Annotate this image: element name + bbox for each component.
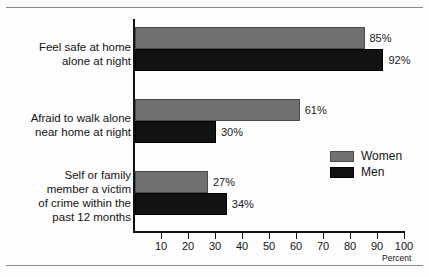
bar-men-feel-safe[interactable] <box>135 49 383 71</box>
axis-title-percent: Percent <box>382 253 411 263</box>
value-axis-tick <box>296 233 297 239</box>
category-label-line: member a victim <box>6 182 131 196</box>
chart-legend: Women Men <box>330 149 402 181</box>
value-axis-tick-label: 40 <box>227 240 257 252</box>
legend-swatch-women-icon <box>330 151 354 162</box>
value-axis-tick-label: 90 <box>362 240 392 252</box>
bar-value-women-afraid-to-walk: 61% <box>305 104 327 116</box>
bar-value-men-afraid-to-walk: 30% <box>221 126 243 138</box>
bar-men-victim-of-crime[interactable] <box>135 193 227 215</box>
bar-chart-plot-area: Feel safe at home alone at night Afraid … <box>0 0 429 277</box>
value-axis-tick-label: 100 <box>389 240 419 252</box>
bar-men-afraid-to-walk[interactable] <box>135 121 216 143</box>
bar-value-women-feel-safe: 85% <box>370 32 392 44</box>
legend-label-men: Men <box>361 166 384 179</box>
category-label-line: Afraid to walk alone <box>6 111 131 125</box>
value-axis-tick <box>269 233 270 239</box>
value-axis-tick-label: 50 <box>254 240 284 252</box>
category-label-line: past 12 months <box>6 210 131 224</box>
category-label-victim-of-crime: Self or family member a victim of crime … <box>6 168 131 224</box>
value-axis-tick-label: 20 <box>173 240 203 252</box>
value-axis-tick <box>350 233 351 239</box>
category-label-line: Self or family <box>6 168 131 182</box>
bar-women-afraid-to-walk[interactable] <box>135 99 300 121</box>
bar-value-men-feel-safe: 92% <box>388 54 410 66</box>
bar-value-women-victim-of-crime: 27% <box>213 176 235 188</box>
value-axis-tick <box>323 233 324 239</box>
legend-label-women: Women <box>361 150 402 163</box>
value-axis-tick-label: 60 <box>281 240 311 252</box>
bar-women-victim-of-crime[interactable] <box>135 171 208 193</box>
value-axis-tick-label: 10 <box>146 240 176 252</box>
value-axis-tick <box>242 233 243 239</box>
value-axis-tick <box>377 233 378 239</box>
chart-figure: Feel safe at home alone at night Afraid … <box>0 0 429 277</box>
category-label-line: of crime within the <box>6 196 131 210</box>
value-axis-tick-label: 80 <box>335 240 365 252</box>
category-label-feel-safe: Feel safe at home alone at night <box>6 40 131 68</box>
bar-women-feel-safe[interactable] <box>135 27 365 49</box>
legend-item-men[interactable]: Men <box>330 165 402 180</box>
value-axis-tick <box>161 233 162 239</box>
category-label-line: alone at night <box>6 54 131 68</box>
value-axis-tick-label: 70 <box>308 240 338 252</box>
category-label-line: Feel safe at home <box>6 40 131 54</box>
legend-item-women[interactable]: Women <box>330 149 402 164</box>
bar-value-men-victim-of-crime: 34% <box>232 198 254 210</box>
value-axis-tick <box>188 233 189 239</box>
value-axis-tick <box>404 233 405 239</box>
value-axis-tick <box>215 233 216 239</box>
value-axis-tick-label: 30 <box>200 240 230 252</box>
legend-swatch-men-icon <box>330 167 354 178</box>
category-label-line: near home at night <box>6 125 131 139</box>
category-label-afraid-to-walk: Afraid to walk alone near home at night <box>6 111 131 139</box>
